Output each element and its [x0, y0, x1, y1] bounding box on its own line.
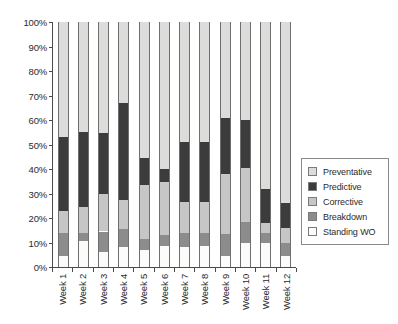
- bar-segment-breakdown[interactable]: [160, 235, 169, 246]
- bar-segment-corrective[interactable]: [119, 200, 128, 229]
- bar-segment-preventative[interactable]: [241, 22, 250, 120]
- x-label-slot: Week 7: [174, 274, 194, 324]
- stacked-bar[interactable]: [199, 22, 210, 267]
- bar-segment-preventative[interactable]: [99, 22, 108, 133]
- bar-slot: [94, 22, 114, 267]
- bar-segment-corrective[interactable]: [221, 174, 230, 234]
- bar-segment-corrective[interactable]: [261, 223, 270, 233]
- stacked-bar[interactable]: [58, 22, 69, 267]
- x-tick-mark: [255, 268, 256, 272]
- bar-segment-breakdown[interactable]: [200, 233, 209, 246]
- x-label-slot: Week 8: [194, 274, 214, 324]
- bar-segment-preventative[interactable]: [160, 22, 169, 169]
- bar-segment-standing-wo[interactable]: [241, 243, 250, 268]
- bar-segment-breakdown[interactable]: [140, 239, 149, 250]
- bar-segment-breakdown[interactable]: [281, 243, 290, 256]
- bar-segment-corrective[interactable]: [160, 182, 169, 235]
- x-label-slot: Week 2: [72, 274, 92, 324]
- legend-item[interactable]: Breakdown: [308, 209, 383, 224]
- bar-segment-breakdown[interactable]: [221, 234, 230, 256]
- stacked-bar[interactable]: [240, 22, 251, 267]
- bar-slot: [73, 22, 93, 267]
- bar-segment-predictive[interactable]: [160, 169, 169, 182]
- bar-segment-corrective[interactable]: [241, 168, 250, 222]
- stacked-bar[interactable]: [280, 22, 291, 267]
- bar-segment-preventative[interactable]: [140, 22, 149, 158]
- legend-swatch: [308, 212, 317, 221]
- bar-group: [53, 22, 296, 267]
- bar-slot: [114, 22, 134, 267]
- bar-segment-preventative[interactable]: [180, 22, 189, 142]
- bar-segment-preventative[interactable]: [281, 22, 290, 203]
- bar-segment-standing-wo[interactable]: [99, 252, 108, 267]
- bar-segment-corrective[interactable]: [180, 202, 189, 233]
- stacked-bar[interactable]: [260, 22, 271, 267]
- bar-segment-standing-wo[interactable]: [200, 246, 209, 267]
- bar-segment-predictive[interactable]: [79, 132, 88, 207]
- bar-segment-preventative[interactable]: [221, 22, 230, 118]
- x-label-slot: Week 11: [255, 274, 275, 324]
- bar-segment-corrective[interactable]: [59, 211, 68, 233]
- bar-slot: [134, 22, 154, 267]
- chart-legend: PreventativePredictiveCorrectiveBreakdow…: [301, 158, 389, 245]
- bar-segment-standing-wo[interactable]: [221, 256, 230, 267]
- bar-segment-predictive[interactable]: [99, 133, 108, 193]
- legend-label: Standing WO: [323, 227, 375, 237]
- bar-segment-breakdown[interactable]: [241, 222, 250, 243]
- bar-segment-breakdown[interactable]: [180, 233, 189, 248]
- bar-segment-predictive[interactable]: [281, 203, 290, 228]
- bar-segment-preventative[interactable]: [79, 22, 88, 132]
- stacked-bar[interactable]: [98, 22, 109, 267]
- bar-segment-breakdown[interactable]: [99, 232, 108, 253]
- bar-segment-predictive[interactable]: [140, 158, 149, 185]
- bar-segment-standing-wo[interactable]: [180, 247, 189, 267]
- bar-segment-preventative[interactable]: [59, 22, 68, 137]
- bar-segment-corrective[interactable]: [200, 202, 209, 233]
- stacked-bar[interactable]: [220, 22, 231, 267]
- x-tick-mark: [194, 268, 195, 272]
- bar-segment-breakdown[interactable]: [59, 233, 68, 256]
- legend-label: Corrective: [323, 197, 363, 207]
- bar-segment-standing-wo[interactable]: [261, 243, 270, 268]
- bar-segment-standing-wo[interactable]: [59, 256, 68, 267]
- bar-segment-predictive[interactable]: [180, 142, 189, 202]
- bar-segment-breakdown[interactable]: [119, 229, 128, 247]
- bar-segment-standing-wo[interactable]: [140, 250, 149, 267]
- x-axis-label: Week 9: [219, 274, 230, 305]
- stacked-bar[interactable]: [159, 22, 170, 267]
- bar-slot: [235, 22, 255, 267]
- bar-segment-standing-wo[interactable]: [281, 256, 290, 267]
- bar-segment-predictive[interactable]: [261, 189, 270, 223]
- legend-item[interactable]: Predictive: [308, 179, 383, 194]
- legend-item[interactable]: Standing WO: [308, 224, 383, 239]
- bar-segment-standing-wo[interactable]: [79, 241, 88, 267]
- x-tick-mark: [72, 268, 73, 272]
- bar-segment-breakdown[interactable]: [261, 233, 270, 243]
- bar-segment-corrective[interactable]: [79, 207, 88, 233]
- bar-segment-breakdown[interactable]: [79, 233, 88, 242]
- bar-segment-predictive[interactable]: [241, 120, 250, 168]
- bar-segment-standing-wo[interactable]: [119, 247, 128, 267]
- legend-item[interactable]: Corrective: [308, 194, 383, 209]
- y-tick-label: 90%: [29, 41, 47, 52]
- legend-item[interactable]: Preventative: [308, 164, 383, 179]
- stacked-bar[interactable]: [139, 22, 150, 267]
- stacked-bar[interactable]: [78, 22, 89, 267]
- legend-swatch: [308, 197, 317, 206]
- bar-segment-predictive[interactable]: [200, 142, 209, 202]
- bar-segment-preventative[interactable]: [261, 22, 270, 189]
- bar-segment-predictive[interactable]: [221, 118, 230, 174]
- bar-segment-standing-wo[interactable]: [160, 246, 169, 267]
- bar-segment-preventative[interactable]: [200, 22, 209, 142]
- stacked-bar[interactable]: [179, 22, 190, 267]
- bar-segment-predictive[interactable]: [119, 103, 128, 200]
- bar-segment-corrective[interactable]: [140, 185, 149, 239]
- y-tick-label: 10%: [29, 237, 47, 248]
- bar-segment-corrective[interactable]: [99, 194, 108, 232]
- bar-segment-predictive[interactable]: [59, 137, 68, 211]
- x-tick-mark: [276, 268, 277, 272]
- stacked-bar[interactable]: [118, 22, 129, 267]
- bar-segment-corrective[interactable]: [281, 228, 290, 243]
- bar-segment-preventative[interactable]: [119, 22, 128, 103]
- y-tick-label: 20%: [29, 213, 47, 224]
